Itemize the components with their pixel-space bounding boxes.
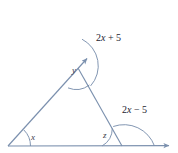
segment-apex-to-right bbox=[78, 68, 122, 146]
angle-arc-y bbox=[68, 85, 89, 89]
expression-label-2x-plus-5: 2x + 5 bbox=[96, 33, 121, 43]
angle-arc-x bbox=[24, 130, 31, 146]
angle-label-x: x bbox=[31, 133, 35, 142]
angle-label-z: z bbox=[103, 131, 107, 140]
geometry-canvas bbox=[0, 0, 178, 153]
geometry-figure: x y z 2x + 5 2x − 5 bbox=[0, 0, 178, 153]
angle-arc-2x-minus-5 bbox=[113, 125, 154, 146]
expression-label-2x-minus-5: 2x − 5 bbox=[122, 105, 147, 115]
angle-label-y: y bbox=[72, 66, 76, 75]
